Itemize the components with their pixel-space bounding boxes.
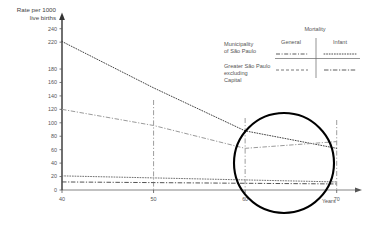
legend-row-municipality-line1: Municipality [224, 41, 253, 47]
y-tick-label: 140 [48, 93, 57, 99]
legend-row-greater-line2: excluding [224, 70, 248, 76]
y-axis-title-line1: Rate per 1000 [17, 6, 57, 13]
magnifier-circle-annotation [234, 113, 334, 213]
y-axis-arrow [59, 13, 65, 21]
x-axis-unit-label: Years [322, 198, 336, 204]
x-axis-arrow [355, 187, 362, 192]
series-line-2 [62, 176, 337, 182]
chart-canvas: Rate per 1000 live births 24022018016014… [0, 0, 370, 225]
x-tick-label: 40 [59, 196, 65, 202]
x-axis-ticks: 40506070 [59, 190, 340, 202]
data-series-group [62, 41, 337, 183]
x-tick-label: 50 [151, 196, 157, 202]
y-tick-label: 100 [48, 120, 57, 126]
y-axis-title: Rate per 1000 live births [17, 6, 57, 21]
y-tick-label: 120 [48, 106, 57, 112]
y-tick-label: 20 [51, 173, 57, 179]
legend: Mortality General Infant Municipality of… [224, 26, 360, 83]
y-tick-label: 220 [48, 39, 57, 45]
y-tick-label: 180 [48, 66, 57, 72]
y-tick-label: 40 [51, 160, 57, 166]
y-tick-label: 240 [48, 26, 57, 32]
axes [59, 13, 362, 193]
y-tick-label: 160 [48, 79, 57, 85]
legend-row-municipality-line2: of São Paulo [224, 48, 256, 54]
series-line-0 [62, 41, 337, 148]
legend-row-greater-line3: Capital [224, 77, 241, 83]
y-axis-title-line2: live births [30, 14, 56, 21]
legend-column-general: General [281, 39, 301, 45]
y-tick-label: 80 [51, 133, 57, 139]
legend-column-infant: Infant [333, 39, 347, 45]
y-axis-ticks: 240220180160140120100806040200 [48, 26, 62, 193]
series-line-3 [62, 182, 337, 184]
legend-title: Mortality [304, 26, 325, 32]
vertical-guide-lines [154, 100, 337, 190]
legend-row-greater-line1: Greater São Paulo [224, 63, 270, 69]
chart-figure: Rate per 1000 live births 24022018016014… [0, 0, 370, 225]
y-tick-label: 0 [54, 187, 57, 193]
y-tick-label: 60 [51, 147, 57, 153]
